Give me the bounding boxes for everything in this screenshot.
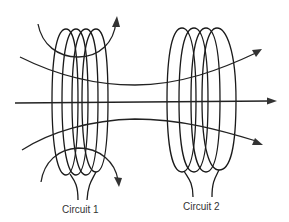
arrow-head-icon <box>267 98 277 105</box>
bottom-loop-field-line <box>41 148 118 182</box>
arrow-head-icon <box>252 49 262 57</box>
lower-field-line <box>22 119 256 150</box>
circuit-2-label: Circuit 2 <box>183 201 220 212</box>
axial-field-line <box>15 101 270 103</box>
arrow-head-icon <box>112 16 120 27</box>
arrow-head-icon <box>114 177 122 187</box>
arrow-head-icon <box>252 138 263 145</box>
mutual-inductance-diagram <box>0 0 289 222</box>
field-lines <box>15 16 277 187</box>
upper-field-line <box>20 52 258 85</box>
circuit-1-coil <box>52 29 108 200</box>
circuit-1-label: Circuit 1 <box>62 204 99 215</box>
circuit-2-coil <box>167 28 236 197</box>
